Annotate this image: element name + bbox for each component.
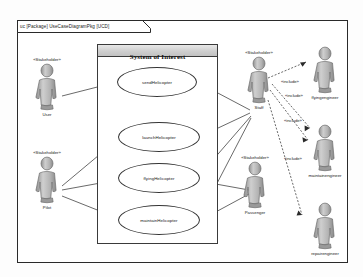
use-case-diagram-canvas: uc [Package] UseCaseDiagramPkg [UCD] [0,0,363,277]
actor-staff[interactable]: «Stakeholder» Staff [232,50,286,111]
actor-figure-icon [310,124,340,172]
actor-name: User [20,112,74,118]
actor-flying-engineer[interactable]: flyingengineer [298,40,352,101]
actor-maintain-engineer[interactable]: maintainengineer [298,118,352,179]
actor-passenger[interactable]: «Stakeholder» Passenger [228,155,282,216]
actor-name: maintainengineer [298,173,352,179]
include-label-1: «include» [281,79,299,84]
actor-user[interactable]: «Stakeholder» User [20,57,74,118]
actor-stereotype: «Stakeholder» [20,150,74,156]
use-case-send-helicopter[interactable]: sendHelicopter [117,67,197,97]
system-boundary-header: System of Interest [97,44,218,57]
actor-name: Pilot [20,205,74,211]
actor-figure-icon [244,56,274,104]
actor-figure-icon [240,161,270,209]
actor-figure-icon [310,202,340,250]
actor-name: Passenger [228,210,282,216]
actor-pilot[interactable]: «Stakeholder» Pilot [20,150,74,211]
include-label-2: «include» [285,93,303,98]
actor-stereotype: «Stakeholder» [232,50,286,56]
use-case-label: flyingHelicopter [144,176,175,181]
actor-stereotype: «Stakeholder» [228,155,282,161]
actor-stereotype: «Stakeholder» [20,57,74,63]
include-label-3: «include» [284,118,302,123]
use-case-maintain-helicopter[interactable]: maintainHelicopter [118,205,200,235]
use-case-launch-helicopter[interactable]: launchHelicopter [118,122,200,152]
actor-figure-icon [310,46,340,94]
actor-name: Staff [232,105,286,111]
use-case-label: sendHelicopter [142,80,172,85]
actor-name: flyingengineer [298,95,352,101]
use-case-label: maintainHelicopter [140,218,177,223]
system-boundary-title: System of Interest [130,53,186,61]
actor-figure-icon [32,156,62,204]
actor-name: repairengineer [298,251,352,257]
use-case-flying-helicopter[interactable]: flyingHelicopter [118,163,200,193]
include-label-4: «include» [284,156,302,161]
actor-repair-engineer[interactable]: repairengineer [298,196,352,257]
actor-figure-icon [32,63,62,111]
use-case-label: launchHelicopter [142,135,176,140]
